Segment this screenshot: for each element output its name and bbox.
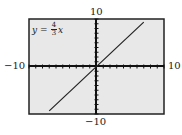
x-max-label: 10 xyxy=(168,61,181,71)
denominator: 3 xyxy=(52,30,56,37)
plot-area xyxy=(0,0,182,135)
x-min-label: −10 xyxy=(4,61,25,71)
y-max-label: 10 xyxy=(90,7,103,17)
fraction: 4 3 xyxy=(51,22,57,37)
equation-label: y = 4 3 x xyxy=(32,22,63,37)
eq-var: x xyxy=(58,25,63,35)
eq-lhs: y xyxy=(32,25,37,35)
eq-sign: = xyxy=(40,25,48,35)
y-min-label: −10 xyxy=(85,117,106,127)
